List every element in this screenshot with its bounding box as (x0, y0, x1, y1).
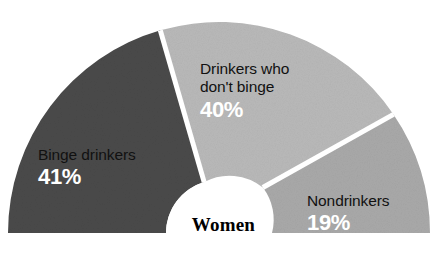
chart-center-caption: Women (0, 214, 447, 236)
slice-label-middle-line2: don't binge (200, 78, 274, 95)
slice-label-drinkers-who-dont-binge: Drinkers who don't binge 40% (200, 60, 289, 121)
slice-label-middle-line1: Drinkers who (200, 60, 289, 77)
slice-label-binge-drinkers: Binge drinkers 41% (38, 146, 136, 188)
slice-value-binge: 41% (38, 165, 136, 188)
semicircle-donut-chart: Binge drinkers 41% Drinkers who don't bi… (0, 0, 447, 258)
slice-value-middle: 40% (200, 98, 289, 121)
slice-label-nondrinkers-text: Nondrinkers (307, 192, 389, 209)
slice-label-binge-text: Binge drinkers (38, 146, 136, 163)
